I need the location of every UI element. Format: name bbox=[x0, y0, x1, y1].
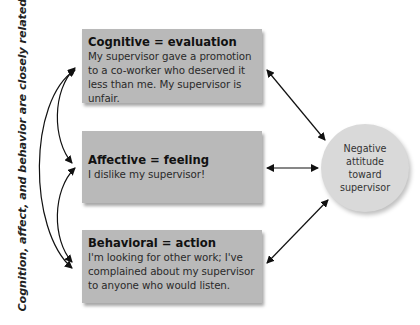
affective-body: I dislike my supervisor! bbox=[88, 167, 256, 181]
affective-behavioral-arrow bbox=[57, 168, 75, 262]
cognitive-title: Cognitive = evaluation bbox=[88, 35, 256, 49]
cognitive-outcome-arrow bbox=[267, 70, 325, 140]
behavioral-title: Behavioral = action bbox=[88, 236, 256, 250]
affective-box: Affective = feeling I dislike my supervi… bbox=[82, 131, 262, 203]
cognitive-body: My supervisor gave a promotion to a co-w… bbox=[88, 49, 256, 105]
behavioral-box: Behavioral = action I'm looking for othe… bbox=[82, 230, 262, 303]
cognitive-affective-arrow bbox=[57, 68, 75, 163]
affective-title: Affective = feeling bbox=[88, 153, 256, 167]
outcome-label: Negative attitude toward supervisor bbox=[330, 142, 400, 194]
cognitive-box: Cognitive = evaluation My supervisor gav… bbox=[82, 29, 262, 103]
behavioral-outcome-arrow bbox=[267, 200, 328, 263]
behavioral-body: I'm looking for other work; I've complai… bbox=[88, 250, 256, 292]
cognitive-behavioral-arrow bbox=[39, 70, 75, 268]
outcome-circle: Negative attitude toward supervisor bbox=[321, 124, 409, 212]
